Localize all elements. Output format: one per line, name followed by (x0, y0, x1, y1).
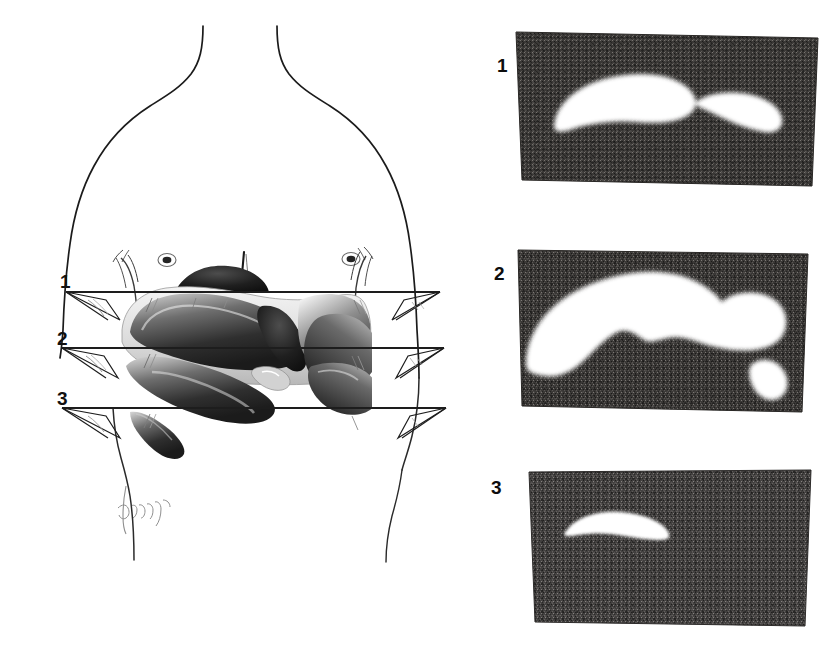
body-diagram (0, 0, 480, 655)
axilla-right-shading (351, 247, 373, 318)
nipple-left (158, 254, 176, 267)
viscera-group (122, 266, 379, 459)
scan-label-3: 3 (491, 478, 502, 497)
scan-label-2: 2 (494, 264, 505, 283)
section-plane-2 (62, 348, 444, 378)
scan-panel-1 (500, 20, 830, 200)
scan-field-1 (500, 20, 830, 200)
axilla-left-shading (113, 250, 138, 316)
section-plane-3 (62, 408, 446, 438)
scan-panel-3 (505, 460, 835, 640)
plane-label-1: 1 (60, 272, 71, 291)
section-plane-1 (66, 292, 440, 320)
scan-panel-2 (500, 240, 830, 430)
scan-label-1: 1 (497, 56, 508, 75)
nipple-right (342, 253, 360, 266)
sternum-line (241, 252, 249, 300)
figure-root: 1 2 3 (0, 0, 839, 655)
torso-outline (60, 26, 419, 562)
scan-field-2 (500, 240, 830, 430)
artist-signature (118, 486, 170, 534)
plane-label-3: 3 (57, 389, 68, 408)
scan-field-3 (505, 460, 835, 640)
plane-label-2: 2 (57, 329, 68, 348)
